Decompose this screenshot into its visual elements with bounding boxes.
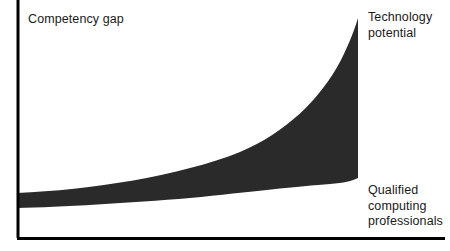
qualified-professionals-line-2: computing: [368, 199, 427, 213]
technology-potential-line-1: Technology: [368, 10, 432, 24]
technology-potential-label: Technologypotential: [368, 10, 432, 41]
qualified-professionals-line-3: professionals: [368, 214, 443, 228]
technology-potential-line-2: potential: [368, 26, 416, 40]
competency-gap-wedge: [17, 18, 358, 208]
competency-gap-label: Competency gap: [28, 12, 124, 28]
qualified-professionals-line-1: Qualified: [368, 183, 418, 197]
competency-gap-figure: Competency gap Technologypotential Quali…: [0, 0, 450, 251]
qualified-professionals-label: Qualifiedcomputingprofessionals: [368, 183, 443, 230]
